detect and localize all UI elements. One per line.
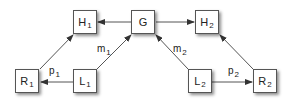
node-l1-sub: 1 <box>86 80 90 89</box>
node-r2-sub: 2 <box>267 80 271 89</box>
edge-label-p1-base: p <box>49 65 55 76</box>
edge-label-p1: p1 <box>49 66 60 77</box>
edge-label-m1-sub: 1 <box>106 48 110 57</box>
edge-label-m2-sub: 2 <box>182 48 186 57</box>
node-h1-label: H <box>78 16 86 28</box>
edge-r2-h2 <box>220 35 253 69</box>
node-l2-sub: 2 <box>201 80 205 89</box>
node-g: G <box>131 10 155 34</box>
node-l1: L1 <box>73 69 97 93</box>
node-l2: L2 <box>188 69 212 93</box>
node-g-label: G <box>139 16 148 28</box>
node-h2-label: H <box>200 16 208 28</box>
edge-label-m2-base: m <box>173 43 181 54</box>
edge-label-p1-sub: 1 <box>56 70 60 79</box>
edge-label-p2-base: p <box>228 65 234 76</box>
node-h1: H1 <box>73 10 97 34</box>
node-h2-sub: 2 <box>209 21 213 30</box>
node-h1-sub: 1 <box>87 21 91 30</box>
node-r1-sub: 1 <box>29 80 33 89</box>
edge-label-m1: m1 <box>97 44 111 55</box>
node-r1: R1 <box>15 69 39 93</box>
node-l2-label: L <box>194 75 200 87</box>
node-r2: R2 <box>253 69 277 93</box>
node-r2-label: R <box>258 75 266 87</box>
node-l1-label: L <box>79 75 85 87</box>
edge-label-p2: p2 <box>228 66 239 77</box>
edge-label-m1-base: m <box>97 43 105 54</box>
node-r1-label: R <box>20 75 28 87</box>
edge-label-p2-sub: 2 <box>235 70 239 79</box>
node-h2: H2 <box>195 10 219 34</box>
edge-label-m2: m2 <box>173 44 187 55</box>
edge-r1-h1 <box>40 35 73 69</box>
